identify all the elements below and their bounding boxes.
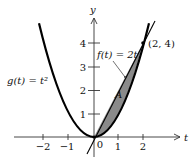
y-tick-label: 1 [80, 109, 86, 120]
x-tick-label: −1 [60, 141, 75, 152]
line-curve [87, 21, 155, 154]
point-label: (2, 4) [148, 38, 175, 49]
y-axis-label: y [89, 4, 96, 15]
line-label: f(t) = 2t [96, 49, 139, 60]
y-tick-label: 2 [80, 85, 86, 96]
x-tick-label: 1 [115, 141, 121, 152]
intersection-point [141, 41, 145, 45]
leader-dot [124, 76, 126, 78]
y-tick-label: 3 [80, 62, 86, 73]
region-label: A [114, 89, 122, 100]
origin-point [92, 135, 95, 138]
leader-line [113, 61, 125, 77]
x-tick-label: 0 [97, 139, 103, 150]
parabola-label: g(t) = t² [7, 75, 48, 86]
x-tick-label: 2 [140, 141, 146, 152]
x-tick-label: −2 [36, 141, 51, 152]
x-axis-label: t [184, 132, 189, 143]
diagram-canvas: −2 −1 0 1 2 1 2 3 4 t y g(t) = t² f(t) =… [0, 0, 192, 162]
y-tick-label: 4 [80, 38, 86, 49]
